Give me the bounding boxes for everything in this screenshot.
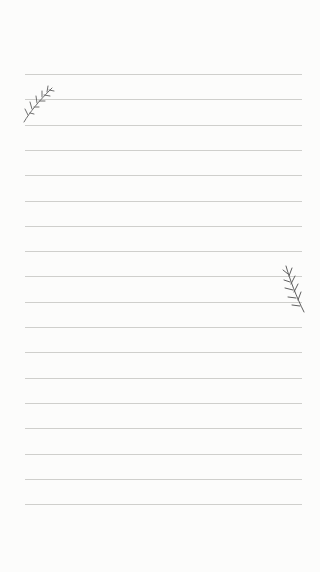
ruled-line: [25, 352, 302, 353]
ruled-line: [25, 378, 302, 379]
ruled-line: [25, 74, 302, 75]
rosemary-sprig-icon: [20, 82, 56, 124]
ruled-line: [25, 226, 302, 227]
ruled-line: [25, 125, 302, 126]
ruled-line: [25, 201, 302, 202]
ruled-line: [25, 99, 302, 100]
ruled-line: [25, 175, 302, 176]
ruled-line: [25, 403, 302, 404]
ruled-line: [25, 454, 302, 455]
rosemary-sprig-icon: [280, 264, 308, 314]
ruled-line: [25, 504, 302, 505]
ruled-line: [25, 327, 302, 328]
ruled-line: [25, 479, 302, 480]
ruled-line: [25, 276, 302, 277]
ruled-line: [25, 150, 302, 151]
ruled-line: [25, 302, 302, 303]
ruled-line: [25, 251, 302, 252]
ruled-line: [25, 428, 302, 429]
